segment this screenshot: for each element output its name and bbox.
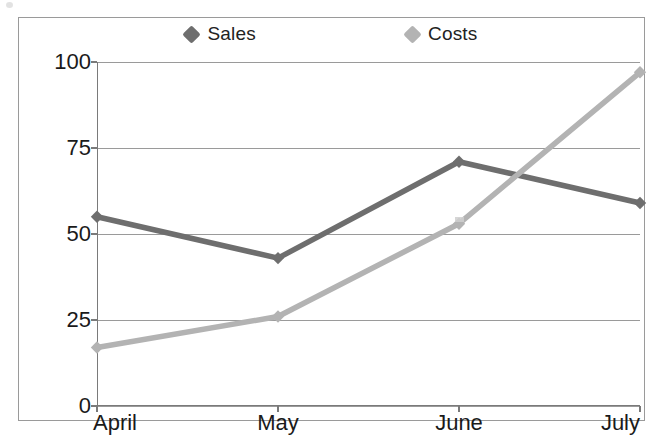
legend-entry-sales[interactable]: Sales — [185, 23, 256, 45]
y-tick-label-75: 75 — [67, 135, 91, 161]
y-tick-label-25: 25 — [67, 307, 91, 333]
data-point-sales-july[interactable] — [634, 197, 646, 209]
diamond-marker-icon — [403, 25, 421, 43]
legend-label-costs: Costs — [428, 23, 478, 45]
scan-artifact-plot — [455, 217, 464, 222]
y-tick-label-50: 50 — [67, 221, 91, 247]
plot-svg — [97, 62, 640, 406]
plot-area — [97, 62, 640, 406]
y-axis-tick-labels: 1007550250 — [37, 62, 91, 406]
x-tick-label-june: June — [435, 410, 483, 436]
line-chart-figure: Sales Costs 1007550250 AprilMayJuneJuly — [18, 17, 645, 421]
x-tick-label-april: April — [93, 410, 137, 436]
legend-label-sales: Sales — [207, 23, 256, 45]
diamond-marker-icon — [183, 25, 201, 43]
scan-artifact-corner — [6, 2, 13, 8]
data-point-costs-april[interactable] — [91, 341, 103, 353]
data-point-sales-april[interactable] — [91, 211, 103, 223]
x-axis-tick-labels: AprilMayJuneJuly — [19, 410, 646, 438]
chart-legend: Sales Costs — [19, 20, 644, 48]
x-tick-label-may: May — [257, 410, 299, 436]
x-tick-label-july: July — [601, 410, 640, 436]
y-tick-label-100: 100 — [54, 49, 91, 75]
series-line-sales[interactable] — [97, 162, 640, 258]
legend-entry-costs[interactable]: Costs — [406, 23, 478, 45]
